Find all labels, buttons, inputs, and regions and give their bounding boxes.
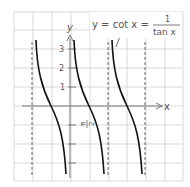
equation-denominator: tan x [153,27,177,37]
x-tick-pi-over-2: π 2 [79,120,96,128]
cot-branch-left [36,40,66,174]
equation-label: y = cot x = 1 tan x [90,12,182,38]
cot-branch-middle [74,40,104,174]
axes [22,35,163,178]
equation-numerator: 1 [165,15,170,24]
svg-text:2: 2 [88,122,96,126]
y-axis-label: y [66,22,74,33]
y-tick-1: 1 [60,83,65,92]
cotangent-graph: y x 3 2 1 π 2 y = cot x = 1 tan x [0,0,190,187]
y-tick-3: 3 [59,45,64,54]
x-axis-label: x [164,101,170,112]
y-tick-2: 2 [59,64,64,73]
equation-lhs: y = cot x = [92,19,149,30]
svg-text:π: π [79,121,87,126]
